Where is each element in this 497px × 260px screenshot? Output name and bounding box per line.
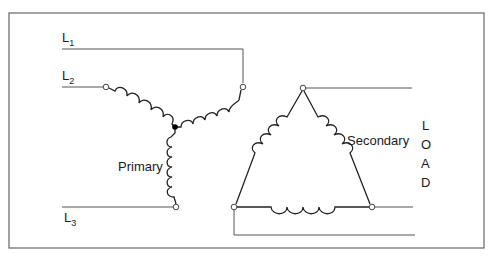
l3-label: L3 [64,210,76,228]
secondary-delta: Secondary [231,85,409,214]
line-l3: L3 [62,207,173,228]
transformer-diagram: L1 L2 L3 Primary Secondary [0,0,497,260]
secondary-node-bottom-left [231,204,237,210]
secondary-node-top [300,85,306,91]
primary-coil-bottom [167,127,176,204]
diagram-frame [9,13,484,248]
primary-neutral-junction [172,124,178,130]
primary-node-l1 [240,84,246,90]
load-letter-l: L [422,118,429,133]
primary-wye: Primary [103,84,246,210]
secondary-node-bottom-right [369,204,375,210]
l2-label: L2 [62,68,74,86]
load-letter-d: D [421,175,430,190]
line-l2: L2 [62,68,103,87]
primary-node-l3 [173,204,179,210]
line-l1: L1 [62,30,243,83]
secondary-label: Secondary [347,133,410,148]
secondary-coil-bottom [237,207,369,214]
load-letter-o: O [421,137,431,152]
primary-coil-left [109,87,175,127]
l1-wire [62,49,243,83]
primary-coil-right [175,90,241,127]
load-letter-a: A [421,156,430,171]
primary-node-l2 [103,84,109,90]
primary-label: Primary [118,159,163,174]
secondary-coil-left [236,91,302,204]
load-label: L O A D [421,118,431,190]
l1-label: L1 [62,30,74,48]
